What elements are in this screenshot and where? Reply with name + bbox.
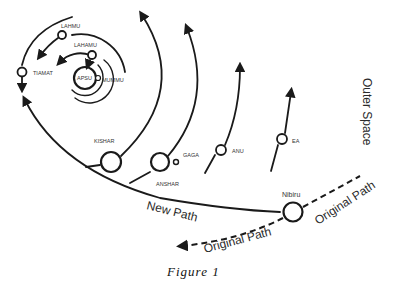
label-anshar: ANSHAR — [156, 181, 179, 187]
label-lahamu: LAHAMU — [74, 42, 97, 48]
solar-system-diagram: APSU MUMMU LAHAMU LAHMU TIAMAT New Path … — [0, 0, 401, 285]
figure-caption: Figure 1 — [166, 264, 220, 279]
ea-orbit: EA — [271, 92, 300, 171]
label-original-path-outgoing: Original Path — [312, 178, 378, 228]
anshar-orbit: ANSHAR GAGA — [130, 28, 199, 187]
nibiru: Nibiru — [282, 191, 303, 222]
label-ea: EA — [292, 138, 300, 144]
lahamu-orbit: LAHAMU — [60, 42, 97, 65]
label-apsu: APSU — [77, 75, 92, 81]
label-nibiru: Nibiru — [282, 191, 300, 198]
original-path-incoming: Original Path — [182, 218, 283, 256]
label-lahmu: LAHMU — [61, 23, 80, 29]
label-original-path-incoming: Original Path — [202, 224, 273, 255]
kishar-orbit: KISHAR — [86, 15, 162, 172]
label-kishar: KISHAR — [94, 138, 115, 144]
label-outer-space: Outer Space — [360, 78, 374, 146]
label-mummu: MUMMU — [102, 77, 124, 83]
label-anu: ANU — [232, 148, 244, 154]
label-gaga: GAGA — [183, 152, 199, 158]
original-path-outgoing: Original Path — [303, 176, 378, 228]
label-tiamat: TIAMAT — [33, 70, 53, 76]
anu-orbit: ANU — [205, 67, 244, 173]
